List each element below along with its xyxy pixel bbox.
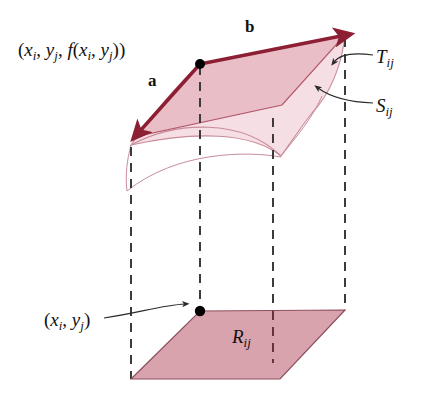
tangent-plane-label: Tij [376, 47, 394, 70]
tangency-point-dot [195, 59, 205, 69]
base-rectangle-symbol: R [232, 326, 244, 347]
point-xi-yj-label: (xi, yj) [44, 310, 90, 333]
fy-var: y [101, 39, 109, 60]
tangent-plane-symbol: T [376, 46, 387, 67]
comma-2: , [58, 39, 68, 60]
vector-a-label: a [148, 72, 157, 89]
point-xi-yj-f-label: (xi, yj, f(xi, yj)) [18, 40, 125, 63]
x-var: x [50, 309, 58, 330]
surface-lower-skirt-curve [127, 154, 281, 191]
figure-container: (xi, yj, f(xi, yj)) (xi, yj) Tij Sij Rij… [0, 0, 423, 419]
x-var: x [24, 39, 32, 60]
leader-to-base-point [104, 304, 185, 318]
paren-close: ) [119, 39, 125, 60]
tangent-plane-subscript: ij [387, 55, 394, 70]
comma-3: , [91, 39, 101, 60]
base-rectangle-label: Rij [232, 327, 251, 350]
paren-close: ) [84, 309, 90, 330]
comma-1: , [62, 309, 72, 330]
surface-patch-subscript: ij [386, 104, 393, 119]
base-point-dot [195, 306, 205, 316]
surface-patch-symbol: S [376, 95, 386, 116]
surface-patch-label: Sij [376, 96, 393, 119]
vector-b-label: b [245, 18, 254, 35]
comma-1: , [36, 39, 46, 60]
base-rectangle-subscript: ij [244, 335, 251, 350]
diagram-canvas [0, 0, 423, 419]
